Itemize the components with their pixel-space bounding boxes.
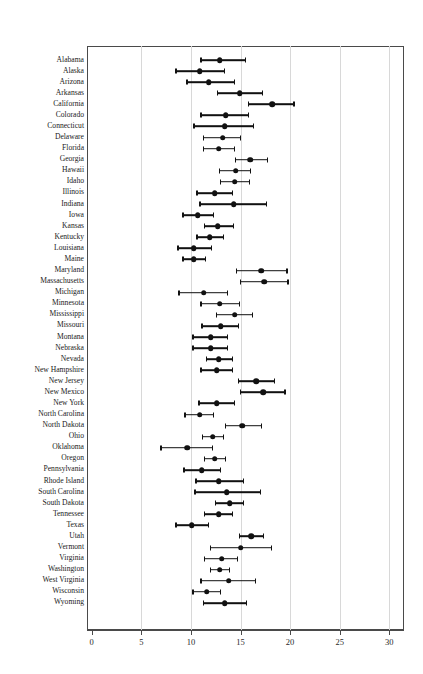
- category-label-new-jersey: New Jersey: [49, 377, 84, 385]
- ci-cap-lower: [194, 490, 195, 495]
- x-axis-line: [87, 630, 404, 631]
- point-estimate-marker: [220, 135, 226, 141]
- ci-cap-upper: [234, 401, 235, 406]
- point-estimate-marker: [249, 534, 255, 540]
- ci-cap-lower: [204, 224, 205, 229]
- ci-cap-lower: [215, 501, 216, 506]
- category-label-west-virginia: West Virginia: [43, 576, 84, 584]
- point-estimate-marker: [217, 57, 223, 63]
- category-label-iowa: Iowa: [69, 211, 84, 219]
- ci-cap-lower: [216, 312, 217, 317]
- category-label-california: California: [53, 100, 84, 108]
- point-estimate-marker: [216, 511, 222, 517]
- ci-cap-lower: [201, 323, 202, 328]
- ci-cap-upper: [208, 523, 209, 528]
- ci-cap-lower: [204, 456, 205, 461]
- ci-cap-upper: [212, 445, 213, 450]
- point-estimate-marker: [207, 234, 213, 240]
- ci-cap-upper: [266, 202, 267, 207]
- category-label-nebraska: Nebraska: [55, 344, 84, 352]
- category-label-georgia: Georgia: [60, 155, 84, 163]
- category-label-missouri: Missouri: [57, 321, 84, 329]
- ci-cap-lower: [193, 124, 194, 129]
- ci-cap-upper: [232, 357, 233, 362]
- ci-cap-upper: [243, 501, 244, 506]
- ci-cap-upper: [246, 600, 247, 605]
- category-label-illinois: Illinois: [62, 188, 84, 196]
- category-label-delaware: Delaware: [55, 133, 84, 141]
- ci-cap-lower: [186, 80, 187, 85]
- ci-cap-lower: [178, 290, 179, 295]
- category-label-hawaii: Hawaii: [62, 166, 84, 174]
- ci-cap-upper: [253, 124, 254, 129]
- point-estimate-marker: [226, 578, 232, 584]
- ci-cap-upper: [213, 412, 214, 417]
- point-estimate-marker: [262, 279, 268, 285]
- ci-cap-lower: [175, 523, 176, 528]
- category-label-rhode-island: Rhode Island: [44, 477, 84, 485]
- category-label-alabama: Alabama: [57, 56, 84, 64]
- point-estimate-marker: [215, 223, 221, 229]
- point-estimate-marker: [214, 367, 220, 373]
- point-estimate-marker: [232, 179, 238, 185]
- ci-cap-upper: [255, 578, 256, 583]
- ci-cap-lower: [202, 434, 203, 439]
- ci-cap-upper: [229, 567, 230, 572]
- category-label-montana: Montana: [57, 333, 84, 341]
- ci-cap-lower: [192, 346, 193, 351]
- ci-cap-upper: [240, 135, 241, 140]
- ci-cap-upper: [274, 379, 275, 384]
- ci-cap-upper: [237, 556, 238, 561]
- ci-cap-lower: [238, 379, 239, 384]
- category-label-maine: Maine: [65, 255, 84, 263]
- x-tick-label-5: 5: [121, 637, 161, 647]
- ci-cap-lower: [220, 179, 221, 184]
- ci-cap-upper: [271, 545, 272, 550]
- ci-cap-upper: [243, 479, 244, 484]
- point-estimate-marker: [238, 545, 244, 551]
- category-label-ohio: Ohio: [69, 432, 84, 440]
- category-label-connecticut: Connecticut: [47, 122, 84, 130]
- x-tick-label-15: 15: [221, 637, 261, 647]
- dot-plot-chart: AlabamaAlaskaArizonaArkansasCaliforniaCo…: [0, 0, 423, 674]
- ci-cap-lower: [225, 423, 226, 428]
- ci-cap-upper: [223, 434, 224, 439]
- x-tick-label-30: 30: [369, 637, 409, 647]
- ci-cap-lower: [217, 91, 218, 96]
- point-estimate-marker: [212, 456, 218, 462]
- category-label-virginia: Virginia: [59, 554, 84, 562]
- ci-cap-lower: [210, 545, 211, 550]
- ci-cap-upper: [261, 423, 262, 428]
- ci-cap-upper: [249, 179, 250, 184]
- point-estimate-marker: [210, 434, 216, 440]
- ci-cap-upper: [232, 512, 233, 517]
- category-label-new-mexico: New Mexico: [45, 388, 84, 396]
- point-estimate-marker: [219, 556, 225, 562]
- ci-cap-upper: [286, 268, 287, 273]
- category-label-pennsylvania: Pennsylvania: [44, 465, 85, 473]
- ci-cap-upper: [293, 102, 294, 107]
- category-label-arizona: Arizona: [60, 78, 84, 86]
- ci-cap-lower: [182, 257, 183, 262]
- point-estimate-marker: [232, 312, 238, 318]
- category-label-oregon: Oregon: [61, 454, 84, 462]
- category-label-new-hampshire: New Hampshire: [34, 366, 84, 374]
- point-estimate-marker: [184, 445, 190, 451]
- point-estimate-marker: [199, 467, 205, 473]
- ci-cap-lower: [160, 445, 161, 450]
- category-label-utah: Utah: [69, 532, 84, 540]
- category-label-north-carolina: North Carolina: [38, 410, 84, 418]
- category-label-new-york: New York: [53, 399, 84, 407]
- point-estimate-marker: [197, 412, 203, 418]
- point-estimate-marker: [208, 345, 214, 351]
- ci-cap-lower: [175, 69, 176, 74]
- category-label-south-carolina: South Carolina: [38, 488, 84, 496]
- point-estimate-marker: [254, 379, 260, 385]
- point-estimate-marker: [240, 423, 246, 429]
- point-estimate-marker: [201, 290, 207, 296]
- ci-cap-upper: [252, 312, 253, 317]
- x-tick-label-0: 0: [72, 637, 112, 647]
- category-label-kansas: Kansas: [62, 222, 84, 230]
- ci-cap-upper: [234, 80, 235, 85]
- point-estimate-marker: [217, 567, 223, 573]
